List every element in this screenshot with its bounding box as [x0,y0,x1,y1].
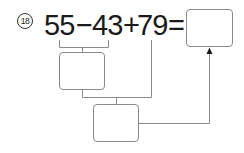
bracket-step1-79 [83,40,152,98]
bracket-55-43 [60,40,109,48]
arrow-up-icon [207,48,213,55]
connector-lines [0,0,244,153]
arrow-line [139,52,210,124]
